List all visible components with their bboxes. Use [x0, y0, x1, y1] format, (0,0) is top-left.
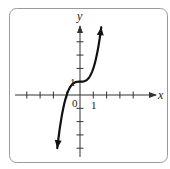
- cubic-function-graph: x y 0 1 1: [0, 0, 170, 169]
- graph-frame: [10, 9, 168, 163]
- y-axis-label: y: [76, 9, 83, 23]
- x-tick-label-1: 1: [91, 99, 97, 111]
- x-axis-label: x: [157, 88, 164, 102]
- origin-label: 0: [72, 97, 78, 109]
- y-tick-label-1: 1: [70, 76, 76, 88]
